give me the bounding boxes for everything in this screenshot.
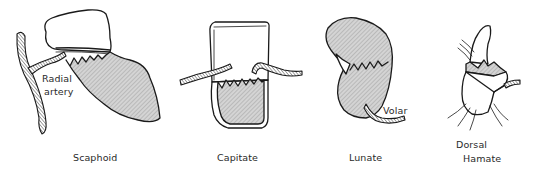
carpal-bones-vascular-diagram: Radial artery Scaphoid Capitate Volar Lu… — [0, 0, 533, 173]
scaphoid-proximal-pole — [45, 10, 111, 52]
radial-artery-branch — [28, 52, 66, 74]
annotation-dorsal: Dorsal — [456, 140, 487, 150]
capitate-body-shaded — [217, 78, 264, 124]
annotation-radial: Radial — [42, 74, 72, 84]
hamate-hook — [470, 26, 491, 64]
capitate-illustration — [180, 22, 302, 128]
diagram-drawing — [0, 0, 533, 173]
panel-title-lunate: Lunate — [349, 153, 382, 163]
annotation-artery: artery — [44, 87, 73, 97]
panel-title-hamate: Hamate — [463, 154, 501, 164]
hamate-body — [462, 72, 508, 115]
scaphoid-illustration — [17, 10, 160, 134]
hamate-illustration — [448, 26, 520, 130]
annotation-volar: Volar — [383, 106, 407, 116]
panel-title-capitate: Capitate — [217, 153, 258, 163]
scaphoid-distal-pole-shaded — [66, 52, 160, 122]
panel-title-scaphoid: Scaphoid — [73, 153, 117, 163]
